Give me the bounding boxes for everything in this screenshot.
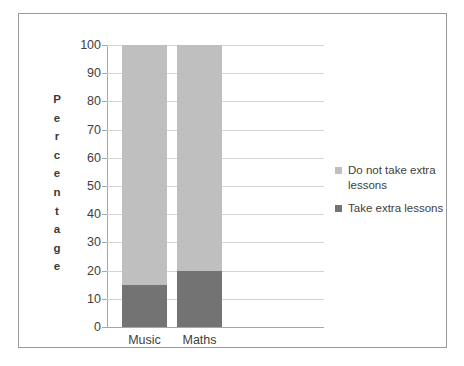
bar-segment	[122, 285, 167, 327]
y-axis-title-letter: r	[49, 127, 65, 146]
legend-swatch-icon	[335, 167, 342, 174]
y-axis-title-letter: e	[49, 109, 65, 128]
y-axis-tick-mark	[102, 271, 107, 272]
y-axis-tick-mark	[102, 186, 107, 187]
y-axis-title-letter: e	[49, 164, 65, 183]
y-axis-tick-label: 90	[69, 66, 101, 80]
y-axis-tick-label: 60	[69, 151, 101, 165]
y-axis-tick-label: 40	[69, 207, 101, 221]
y-axis-title-letter: P	[49, 90, 65, 109]
y-axis-tick-label: 20	[69, 264, 101, 278]
chart-legend: Do not take extra lessonsTake extra less…	[335, 163, 457, 225]
y-axis-tick-label: 10	[69, 292, 101, 306]
y-axis-title-letter: a	[49, 220, 65, 239]
legend-item[interactable]: Take extra lessons	[335, 201, 457, 216]
legend-label: Do not take extra lessons	[348, 164, 436, 191]
y-axis-tick-mark	[102, 130, 107, 131]
y-axis-tick-mark	[102, 158, 107, 159]
y-axis-tick-mark	[102, 73, 107, 74]
y-axis-title-letter: e	[49, 257, 65, 276]
x-axis-line	[107, 327, 324, 328]
y-axis-tick-mark	[102, 327, 107, 328]
plot-area	[107, 45, 324, 327]
bar-segment	[177, 271, 222, 327]
y-axis-tick-label: 30	[69, 235, 101, 249]
y-axis-tick-label: 0	[69, 320, 101, 334]
y-axis-tick-labels: 1009080706050403020100	[65, 45, 101, 327]
legend-item[interactable]: Do not take extra lessons	[335, 163, 457, 192]
y-axis-tick-label: 100	[69, 38, 101, 52]
bar-segment	[122, 45, 167, 285]
y-axis-tick-label: 80	[69, 94, 101, 108]
y-axis-tick-mark	[102, 45, 107, 46]
y-axis-tick-label: 50	[69, 179, 101, 193]
y-axis-title-letter: g	[49, 239, 65, 258]
y-axis-tick-mark	[102, 214, 107, 215]
bar-maths	[177, 45, 222, 327]
y-axis-title-letter: c	[49, 146, 65, 165]
y-axis-tick-label: 70	[69, 123, 101, 137]
bar-segment	[177, 45, 222, 271]
y-axis-title-letter: n	[49, 183, 65, 202]
y-axis-title-letter: t	[49, 202, 65, 221]
y-axis-tick-mark	[102, 299, 107, 300]
y-axis-tick-mark	[102, 101, 107, 102]
legend-swatch-icon	[335, 205, 342, 212]
chart-frame: Percentage 1009080706050403020100 Do not…	[18, 13, 447, 348]
bar-music	[122, 45, 167, 327]
y-axis-tick-mark	[102, 242, 107, 243]
x-axis-category-label: Maths	[167, 333, 232, 347]
y-axis-title: Percentage	[49, 90, 65, 276]
legend-label: Take extra lessons	[348, 202, 443, 214]
